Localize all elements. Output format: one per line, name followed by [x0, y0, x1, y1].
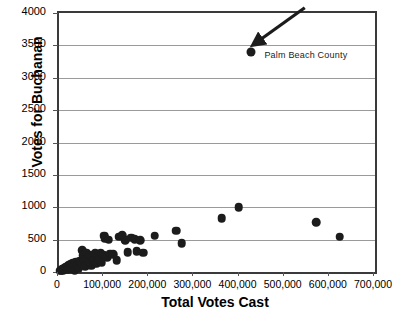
y-tick-label: 4000: [22, 5, 46, 17]
x-tick-label: 100,000: [83, 278, 121, 290]
x-tick-mark: [283, 272, 284, 276]
x-tick-label: 700,000: [354, 278, 392, 290]
x-tick-label: 600,000: [309, 278, 347, 290]
x-tick-mark: [373, 272, 374, 276]
y-tick-label: 1000: [22, 199, 46, 211]
data-point: [139, 248, 148, 257]
data-point: [172, 227, 181, 236]
data-point: [312, 218, 321, 227]
y-tick-label: 3000: [22, 70, 46, 82]
y-tick-mark: [53, 45, 58, 46]
y-tick-label: 1500: [22, 167, 46, 179]
gridline: [59, 143, 375, 144]
gridline: [59, 78, 375, 79]
y-tick-mark: [53, 78, 58, 79]
data-point-outlier: [246, 47, 255, 56]
data-point: [335, 232, 344, 241]
data-point: [136, 236, 145, 245]
y-tick-mark: [53, 207, 58, 208]
data-point: [150, 231, 159, 240]
gridline: [59, 45, 375, 46]
x-tick-label: 400,000: [219, 278, 257, 290]
annotation-label-palm-beach-county: Palm Beach County: [264, 50, 347, 60]
x-tick-mark: [147, 272, 148, 276]
x-tick-mark: [238, 272, 239, 276]
y-tick-label: 0: [40, 264, 46, 276]
x-tick-label: 200,000: [128, 278, 166, 290]
y-tick-label: 3500: [22, 37, 46, 49]
x-axis-title: Total Votes Cast: [57, 294, 373, 310]
x-tick-label: 300,000: [173, 278, 211, 290]
y-tick-label: 2500: [22, 102, 46, 114]
y-tick-mark: [53, 240, 58, 241]
x-tick-label: 0: [54, 278, 60, 290]
x-axis-tick-labels: 0100,000200,000300,000400,000500,000600,…: [57, 272, 373, 292]
x-tick-mark: [57, 272, 58, 276]
data-point: [234, 203, 243, 212]
data-point: [217, 214, 226, 223]
chart-root: Votes for Buchanan 050010001500200025003…: [0, 0, 396, 310]
y-tick-label: 500: [28, 232, 46, 244]
plot-area: Palm Beach County: [57, 11, 377, 274]
x-tick-mark: [102, 272, 103, 276]
y-tick-mark: [53, 13, 58, 14]
x-tick-mark: [192, 272, 193, 276]
y-axis-tick-labels: 05001000150020002500300035004000: [0, 0, 57, 310]
data-point: [177, 239, 186, 248]
y-tick-mark: [53, 175, 58, 176]
x-tick-mark: [328, 272, 329, 276]
x-tick-label: 500,000: [264, 278, 302, 290]
y-tick-mark: [53, 143, 58, 144]
gridline: [59, 110, 375, 111]
y-tick-label: 2000: [22, 135, 46, 147]
data-point: [104, 235, 113, 244]
data-point: [123, 248, 132, 257]
y-tick-mark: [53, 110, 58, 111]
data-point: [112, 256, 121, 265]
gridline: [59, 175, 375, 176]
gridline: [59, 207, 375, 208]
